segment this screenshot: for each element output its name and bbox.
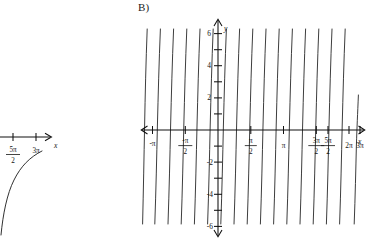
figure-canvas: B) 5π 2 3π x <box>0 0 371 241</box>
main-graph-right-labels: 5π 2 3π <box>321 126 371 166</box>
y-label-6: 6 <box>207 29 211 38</box>
y-label-neg-6: -6 <box>207 222 213 231</box>
y-label-neg-2: -2 <box>207 158 213 167</box>
fragment-x-axis-label: x <box>53 141 58 150</box>
pi-numerator: π <box>249 137 253 145</box>
main-graph: x y 6 4 2 -2 -4 -6 -π -π 2 π 2 π 3π 2 <box>136 0 371 241</box>
x-label-3pi: 3π <box>356 141 364 150</box>
fragment-curve <box>1 151 42 235</box>
y-label-neg-4: -4 <box>207 190 213 199</box>
x-label-neg-pi-over-2: -π 2 <box>178 137 192 156</box>
five-pi-numerator: 5π <box>324 137 332 145</box>
x-label-neg-pi: -π <box>149 139 155 148</box>
x-label-pi: π <box>282 141 286 150</box>
three-pi-numerator: 3π <box>313 137 321 145</box>
neg-pi-numerator: -π <box>182 137 188 145</box>
y-axis-label: y <box>223 24 228 33</box>
left-fragment-graph: 5π 2 3π x <box>0 128 90 238</box>
x-label-pi-over-2: π 2 <box>245 137 257 156</box>
three-pi-denominator: 2 <box>315 148 319 156</box>
x-label-5pi-over-2: 5π 2 <box>321 137 335 156</box>
fragment-5pi-denominator: 2 <box>11 157 15 165</box>
five-pi-denominator: 2 <box>326 148 330 156</box>
fragment-label-5pi-over-2: 5π 2 <box>6 146 20 165</box>
fragment-5pi-numerator: 5π <box>9 146 17 154</box>
neg-pi-denominator: 2 <box>184 148 188 156</box>
y-label-2: 2 <box>207 93 211 102</box>
pi-denominator: 2 <box>249 148 253 156</box>
y-label-4: 4 <box>207 61 211 70</box>
y-axis <box>214 19 222 237</box>
fragment-x-axis <box>0 133 52 141</box>
